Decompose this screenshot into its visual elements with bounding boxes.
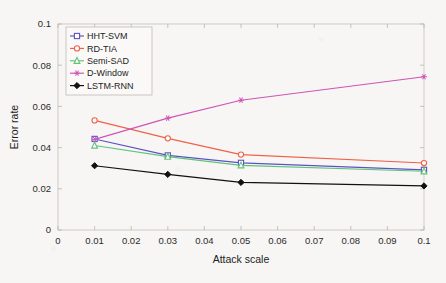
x-axis-title: Attack scale	[213, 253, 270, 265]
series-semi-sad	[92, 142, 427, 174]
data-point-marker	[238, 98, 244, 103]
x-tick-label: 0.1	[417, 235, 430, 246]
series-hht-svm	[92, 136, 427, 172]
x-tick-label: 0.01	[85, 235, 104, 246]
legend-item-label: RD-TIA	[87, 44, 117, 54]
chart-legend: HHT-SVMRD-TIASemi-SADD-WindowLSTM-RNN	[66, 27, 152, 95]
data-point-marker	[92, 142, 98, 148]
x-tick-label: 0.05	[232, 235, 251, 246]
legend-item-label: LSTM-RNN	[87, 81, 134, 91]
data-point-marker	[92, 163, 98, 169]
x-tick-label: 0	[55, 235, 60, 246]
legend-item-label: HHT-SVM	[87, 31, 128, 41]
x-tick-label: 0.08	[342, 235, 361, 246]
data-point-marker	[74, 33, 79, 38]
y-tick-label: 0.04	[33, 142, 52, 153]
line-chart: 00.010.020.030.040.050.060.070.080.090.1…	[0, 0, 446, 283]
data-point-marker	[165, 116, 171, 121]
x-tick-label: 0.06	[268, 235, 287, 246]
data-point-marker	[238, 152, 243, 157]
data-point-marker	[238, 179, 244, 185]
y-tick-label: 0.06	[33, 101, 52, 112]
x-tick-label: 0.03	[159, 235, 178, 246]
x-tick-label: 0.04	[195, 235, 214, 246]
y-tick-label: 0.1	[38, 18, 51, 29]
series-lstm-rnn	[92, 163, 428, 189]
data-point-marker	[92, 118, 97, 123]
data-point-marker	[74, 46, 79, 51]
chart-figure: 00.010.020.030.040.050.060.070.080.090.1…	[0, 0, 446, 283]
y-tick-label: 0.02	[33, 183, 52, 194]
x-axis-tick-labels: 00.010.020.030.040.050.060.070.080.090.1	[55, 235, 430, 246]
y-axis-tick-labels: 00.020.040.060.080.1	[33, 18, 52, 235]
x-tick-label: 0.02	[122, 235, 141, 246]
data-point-marker	[165, 171, 171, 177]
series-line	[95, 166, 424, 186]
data-point-marker	[421, 183, 427, 189]
y-axis-title: Error rate	[8, 105, 20, 150]
series-line	[95, 120, 424, 163]
x-tick-label: 0.07	[305, 235, 324, 246]
data-point-marker	[165, 136, 170, 141]
legend-item-label: D-Window	[87, 68, 129, 78]
data-point-marker	[421, 160, 426, 165]
y-tick-label: 0	[46, 224, 51, 235]
x-tick-label: 0.09	[378, 235, 397, 246]
series-line	[95, 139, 424, 170]
y-tick-label: 0.08	[33, 60, 52, 71]
legend-item-label: Semi-SAD	[87, 56, 130, 66]
